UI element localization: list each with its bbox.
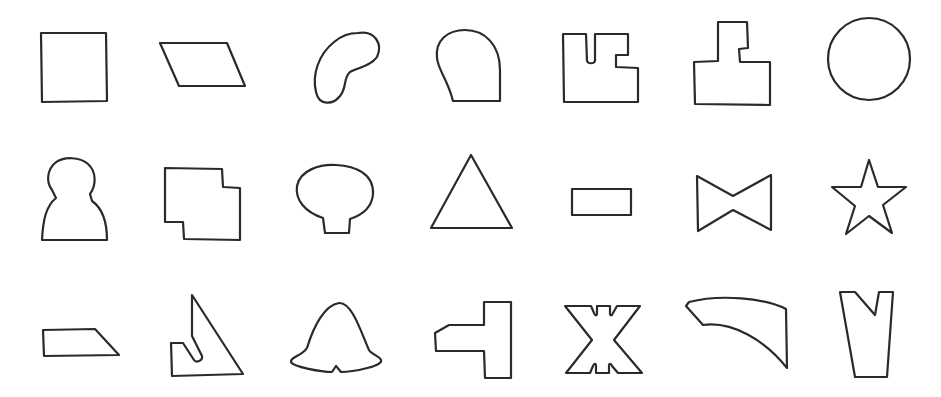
trapezoid-slab-shape [43,329,119,356]
square-shape [41,33,107,102]
rounded-quarter-dome-shape [437,30,500,101]
five-point-star-shape [832,160,906,234]
stepped-tower-block-shape [694,22,770,105]
notched-block-shape [563,34,638,102]
pawn-silhouette-shape [42,158,107,240]
curved-horn-shape [686,298,787,368]
offset-overlapping-squares-shape [165,168,240,240]
x-letter-block-shape [565,306,642,373]
v-notched-tapered-post-shape [840,292,893,377]
shapes-canvas [0,0,941,397]
circle-shape [828,18,910,100]
parallelogram-shape [160,43,245,86]
small-rectangle-shape [572,189,631,215]
bowtie-shape [697,175,771,231]
notched-right-triangle-shape [171,295,243,376]
triangle-shape [431,155,512,228]
kidney-blob-shape [315,33,379,103]
bell-shape [291,303,381,372]
mushroom-oval-shape [297,165,373,233]
t-bracket-shape [435,302,511,378]
